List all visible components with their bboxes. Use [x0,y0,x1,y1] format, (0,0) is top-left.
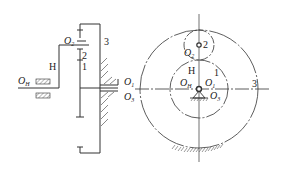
label-ring-right: 3 [252,78,257,89]
label-gear1-left: 1 [82,61,87,72]
label-gear2-left: 2 [82,50,87,61]
label-o2-right: O2 [184,47,194,59]
label-gear1-right: 1 [214,67,219,78]
label-carrier-left: H [49,61,56,72]
label-carrier-right: H [188,65,195,76]
label-o1-right: O1 [205,77,215,89]
label-oh-left: OH [18,75,30,87]
label-oh-right: OH [180,77,192,89]
label-o2-left: O2 [64,35,74,47]
gear-train-diagram: O2 2 1 H 3 OH O1 O3 [0,0,284,170]
right-labels: 2 O2 H 1 OH O1 3 O3 [180,39,257,102]
label-ring-left: 3 [104,36,109,47]
label-o1-left: O1 [124,76,134,88]
planet-pin [197,43,201,47]
right-view [135,14,270,162]
label-o3-right: O3 [210,90,220,102]
label-o3-left: O3 [124,91,134,103]
label-gear2-right: 2 [203,39,208,50]
